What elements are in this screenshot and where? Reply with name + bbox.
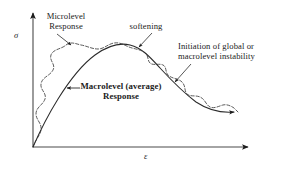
leader-line-softening (139, 33, 152, 47)
annotation-initiation-instability: Initiation of global or macrolevel insta… (178, 42, 282, 61)
annotation-softening: softening (122, 22, 170, 32)
axes-group (33, 13, 248, 147)
annotation-microlevel-response: Microlevel Response (38, 12, 94, 31)
annotation-microlevel-line2: Response (38, 22, 94, 32)
stress-strain-figure: σ ε Microlevel Response softening Initia… (0, 0, 284, 172)
annotation-macrolevel-response: Macrolevel (average) Response (72, 82, 170, 102)
leader-line-microlevel (57, 34, 71, 45)
annotation-macrolevel-line2: Response (72, 92, 170, 102)
epsilon-axis-label: ε (144, 152, 147, 162)
annotation-initiation-line2: macrolevel instability (178, 52, 282, 62)
annotation-softening-text: softening (122, 22, 170, 32)
leader-line-initiation (175, 64, 191, 82)
sigma-axis-label: σ (14, 31, 18, 41)
